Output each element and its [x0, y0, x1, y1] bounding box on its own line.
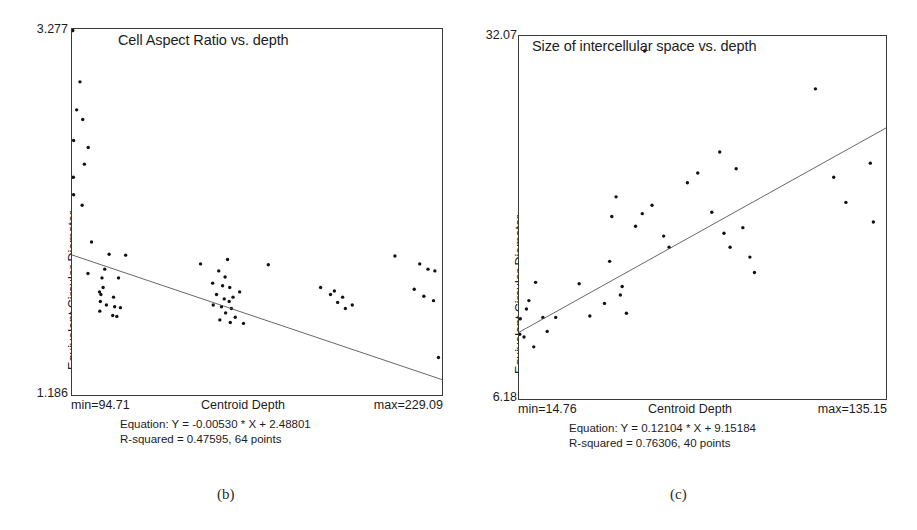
scatter-point — [229, 321, 232, 324]
scatter-point — [333, 289, 336, 292]
scatter-point — [112, 295, 115, 298]
scatter-point — [267, 263, 270, 266]
scatter-point — [78, 80, 81, 83]
scatter-point — [234, 316, 237, 319]
scatter-point — [532, 345, 535, 348]
scatter-point — [105, 303, 108, 306]
scatter-point — [620, 285, 623, 288]
scatter-point — [217, 269, 220, 272]
scatter-point — [215, 293, 218, 296]
scatter-point — [625, 312, 628, 315]
scatter-point — [224, 311, 227, 314]
y-axis-min-label-c: 6.18 — [465, 390, 517, 404]
scatter-point — [433, 269, 436, 272]
scatter-point — [81, 118, 84, 121]
figure-panel-b: 3.277 1.186 Equivalent Circular Diameter… — [0, 0, 460, 530]
scatter-point — [519, 317, 522, 320]
scatter-point — [432, 299, 435, 302]
scatter-point — [832, 176, 835, 179]
scatter-point — [124, 253, 127, 256]
chart-title-b: Cell Aspect Ratio vs. depth — [118, 32, 289, 48]
subfigure-caption-b: (b) — [217, 486, 235, 503]
scatter-point — [90, 240, 93, 243]
scatter-point — [634, 225, 637, 228]
scatter-point — [100, 276, 103, 279]
scatter-point — [577, 282, 580, 285]
regression-line — [519, 128, 886, 332]
scatter-point — [519, 333, 521, 336]
scatter-point — [329, 293, 332, 296]
y-axis-max-label-b: 3.277 — [12, 22, 68, 36]
scatter-point — [344, 307, 347, 310]
x-axis-row-c: min=14.76 Centroid Depth max=135.15 — [518, 402, 887, 418]
scatter-point — [710, 211, 713, 214]
subfigure-caption-c: (c) — [670, 486, 687, 503]
scatter-point — [641, 212, 644, 215]
scatter-point — [734, 167, 737, 170]
scatter-point — [83, 162, 86, 165]
scatter-point — [228, 286, 231, 289]
scatter-point — [211, 281, 214, 284]
scatter-point — [437, 356, 440, 359]
scatter-point — [72, 139, 75, 142]
scatter-point — [422, 295, 425, 298]
scatter-point — [72, 193, 75, 196]
scatter-point — [218, 318, 221, 321]
scatter-point — [686, 181, 689, 184]
equation-line-b: Equation: Y = -0.00530 * X + 2.48801 — [120, 417, 311, 432]
scatter-point — [718, 150, 721, 153]
scatter-point — [588, 314, 591, 317]
scatter-point — [662, 234, 665, 237]
equation-block-b: Equation: Y = -0.00530 * X + 2.48801 R-s… — [120, 417, 311, 446]
plot-area-b — [71, 28, 443, 396]
scatter-point — [741, 226, 744, 229]
scatter-point — [554, 316, 557, 319]
scatter-point — [223, 297, 226, 300]
scatter-point — [212, 303, 215, 306]
equation-line-c: Equation: Y = 0.12104 * X + 9.15184 — [569, 421, 756, 436]
scatter-point — [80, 204, 83, 207]
scatter-point — [221, 284, 224, 287]
scatter-point — [426, 267, 429, 270]
scatter-point — [650, 204, 653, 207]
x-axis-title-b: Centroid Depth — [201, 398, 285, 412]
scatter-point — [753, 271, 756, 274]
scatter-point — [814, 87, 817, 90]
scatter-point — [418, 262, 421, 265]
scatter-point — [199, 262, 202, 265]
rsquared-line-c: R-squared = 0.76306, 40 points — [569, 436, 756, 451]
scatter-point — [99, 293, 102, 296]
scatter-svg-c — [519, 36, 886, 399]
scatter-point — [119, 306, 122, 309]
scatter-point — [319, 286, 322, 289]
chart-b: 3.277 1.186 Equivalent Circular Diameter… — [0, 0, 460, 530]
chart-c: 32.07 6.18 Equivalent Circular Diameter … — [457, 0, 917, 530]
scatter-point — [545, 330, 548, 333]
rsquared-line-b: R-squared = 0.47595, 64 points — [120, 432, 311, 447]
scatter-point — [72, 29, 74, 32]
scatter-point — [619, 293, 622, 296]
scatter-point — [844, 201, 847, 204]
scatter-point — [608, 260, 611, 263]
scatter-point — [336, 301, 339, 304]
chart-title-c: Size of intercellular space vs. depth — [532, 38, 756, 54]
scatter-point — [614, 195, 617, 198]
figure-panel-c: 32.07 6.18 Equivalent Circular Diameter … — [457, 0, 917, 530]
scatter-point — [98, 309, 101, 312]
scatter-point — [113, 305, 116, 308]
scatter-point — [413, 288, 416, 291]
x-axis-min-label-c: min=14.76 — [518, 402, 577, 416]
scatter-point — [111, 314, 114, 317]
scatter-point — [99, 300, 102, 303]
scatter-point — [728, 246, 731, 249]
scatter-point — [86, 272, 89, 275]
scatter-point — [522, 335, 525, 338]
scatter-point — [872, 220, 875, 223]
scatter-point — [103, 267, 106, 270]
scatter-point — [101, 286, 104, 289]
scatter-point — [351, 303, 354, 306]
scatter-point — [242, 322, 245, 325]
x-axis-max-label-b: max=229.09 — [374, 398, 443, 412]
scatter-svg-b — [72, 29, 442, 395]
y-axis-min-label-b: 1.186 — [12, 386, 68, 400]
